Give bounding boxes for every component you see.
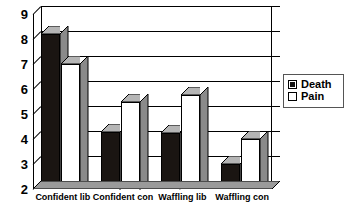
y-axis-tick-label: 7 xyxy=(0,58,28,71)
legend-swatch-pain-icon xyxy=(288,92,297,101)
y-axis-tick-label: 2 xyxy=(0,183,28,196)
y-axis-tick-label: 3 xyxy=(0,158,28,171)
y-axis-tick-label: 9 xyxy=(0,8,28,21)
x-axis-category-label: Confident con xyxy=(93,193,153,202)
chart-floor xyxy=(33,181,280,189)
y-axis-tick-label: 8 xyxy=(0,33,28,46)
legend-item-pain: Pain xyxy=(288,91,339,102)
legend-label-pain: Pain xyxy=(301,91,324,102)
y-axis-tick-label: 4 xyxy=(0,133,28,146)
chart-legend: Death Pain xyxy=(283,74,344,108)
x-axis-category-label: Confident lib xyxy=(33,193,93,202)
legend-item-death: Death xyxy=(288,79,339,90)
legend-swatch-death-icon xyxy=(288,80,297,89)
x-axis-category-label: Waffling con xyxy=(212,193,272,202)
bar-chart: 98765432 Confident libConfident conWaffl… xyxy=(0,0,350,212)
y-axis-tick-label: 5 xyxy=(0,108,28,121)
legend-label-death: Death xyxy=(301,79,332,90)
x-axis-category-label: Waffling lib xyxy=(153,193,213,202)
plot-axes xyxy=(33,14,272,189)
y-axis-tick-label: 6 xyxy=(0,83,28,96)
gridline xyxy=(41,6,280,7)
